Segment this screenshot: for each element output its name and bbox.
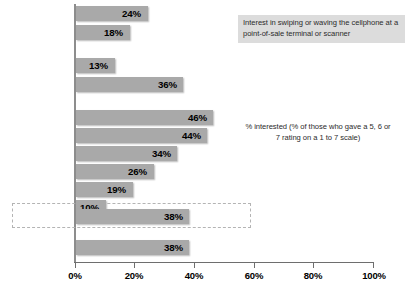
- bar-value-age-25-34: 34%: [152, 146, 171, 161]
- bar-value-2012: 24%: [122, 6, 141, 21]
- bar-value-regular-cell: 13%: [89, 58, 108, 73]
- bar-value-age-45-54: 19%: [107, 182, 126, 197]
- x-tick-0: [75, 262, 76, 268]
- bar-value-age-18-34: 38%: [164, 209, 183, 224]
- x-tick-label-0: 0%: [68, 270, 81, 281]
- x-tick-5: [373, 262, 374, 268]
- x-tick-label-5: 100%: [362, 270, 386, 281]
- x-tick-3: [254, 262, 255, 268]
- annotation-interest-note: Interest in swiping or waving the cellph…: [238, 15, 405, 43]
- x-tick-label-2: 40%: [185, 270, 203, 281]
- bar-value-cellphone-only: 38%: [164, 240, 183, 255]
- x-tick-label-4: 80%: [304, 270, 322, 281]
- bar-value-age-18-24: 44%: [182, 128, 201, 143]
- x-tick-label-1: 20%: [125, 270, 143, 281]
- bar-value-age-35-44: 26%: [128, 164, 147, 179]
- bar-value-smartphone: 36%: [158, 77, 177, 92]
- x-tick-label-3: 60%: [245, 270, 263, 281]
- x-axis-line: [74, 262, 373, 263]
- x-tick-1: [134, 262, 135, 268]
- bar-value-age-14-17: 46%: [188, 110, 207, 125]
- x-tick-4: [313, 262, 314, 268]
- annotation-scale-note: % interested (% of those who gave a 5, 6…: [243, 122, 393, 143]
- bar-value-2011: 18%: [104, 25, 123, 40]
- x-tick-2: [194, 262, 195, 268]
